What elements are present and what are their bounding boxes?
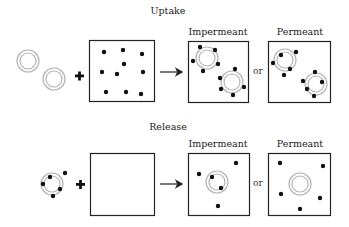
uptake-impermeant-box — [189, 42, 249, 103]
release-empty-box — [91, 154, 155, 216]
diagram-canvas — [0, 0, 349, 227]
release-impermeant-box — [189, 154, 250, 216]
plus-icon — [75, 72, 84, 81]
release-loaded-vesicle — [41, 171, 67, 198]
uptake-permeant-box — [269, 42, 331, 103]
uptake-vesicles-empty — [17, 50, 65, 90]
uptake-solute-box — [90, 41, 155, 102]
release-permeant-box — [269, 154, 331, 216]
plus-icon — [76, 180, 85, 189]
